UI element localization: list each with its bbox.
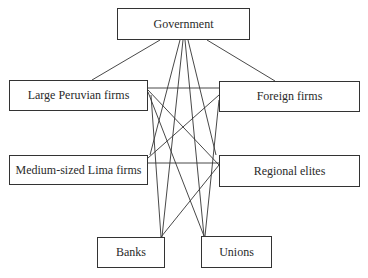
- node-label: Foreign firms: [257, 89, 323, 104]
- edge-large_peruvian_firms-unions: [148, 92, 204, 236]
- node-label: Banks: [116, 245, 146, 260]
- node-label: Medium-sized Lima firms: [16, 163, 142, 178]
- node-label: Unions: [219, 245, 254, 260]
- edge-government-foreign_firms: [207, 40, 275, 81]
- node-government: Government: [117, 8, 250, 40]
- node-label: Large Peruvian firms: [28, 88, 130, 103]
- node-regional-elites: Regional elites: [219, 155, 360, 187]
- edge-government-unions: [185, 40, 204, 236]
- edge-government-regional_elites: [188, 40, 216, 155]
- edge-large_peruvian_firms-banks: [151, 95, 161, 237]
- node-medium-lima-firms: Medium-sized Lima firms: [9, 155, 148, 185]
- edges-layer: [0, 0, 368, 278]
- actor-network-diagram: Government Large Peruvian firms Foreign …: [0, 0, 368, 278]
- edge-government-large_peruvian_firms: [92, 40, 160, 80]
- node-unions: Unions: [201, 236, 272, 268]
- edge-foreign_firms-medium_lima_firms: [148, 95, 219, 158]
- node-label: Government: [154, 17, 214, 32]
- node-banks: Banks: [97, 237, 165, 268]
- node-foreign-firms: Foreign firms: [219, 81, 360, 112]
- edge-large_peruvian_firms-regional_elites: [148, 90, 219, 165]
- node-large-peruvian-firms: Large Peruvian firms: [9, 80, 148, 111]
- edge-regional_elites-banks: [161, 165, 219, 237]
- node-label: Regional elites: [254, 164, 326, 179]
